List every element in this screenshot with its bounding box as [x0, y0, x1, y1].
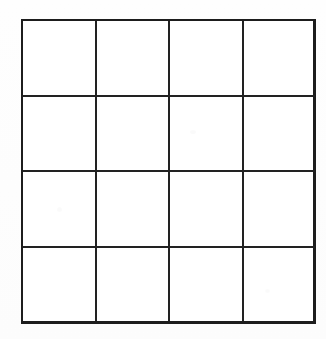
grid-cell-r2c4[interactable]	[244, 97, 315, 173]
grid-cell-r1c4[interactable]	[244, 21, 315, 97]
grid-cell-r3c1[interactable]	[23, 172, 97, 248]
table-row	[23, 21, 315, 97]
table-row	[23, 248, 315, 322]
table-row	[23, 172, 315, 248]
grid-table	[21, 19, 316, 324]
grid-cell-r4c4[interactable]	[244, 248, 315, 322]
grid-cell-r4c1[interactable]	[23, 248, 97, 322]
grid-cell-r3c2[interactable]	[97, 172, 170, 248]
grid-cell-r4c2[interactable]	[97, 248, 170, 322]
grid-cell-r4c3[interactable]	[170, 248, 244, 322]
grid-cell-r1c2[interactable]	[97, 21, 170, 97]
grid-cell-r1c1[interactable]	[23, 21, 97, 97]
grid-cell-r3c3[interactable]	[170, 172, 244, 248]
grid-cell-r1c3[interactable]	[170, 21, 244, 97]
grid-cell-r2c3[interactable]	[170, 97, 244, 173]
grid-cell-r3c4[interactable]	[244, 172, 315, 248]
grid-cell-r2c2[interactable]	[97, 97, 170, 173]
table-row	[23, 97, 315, 173]
grid-cell-r2c1[interactable]	[23, 97, 97, 173]
